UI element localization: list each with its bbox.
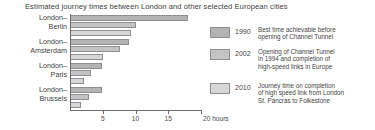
chart-title: Estimated journey times between London a…: [25, 2, 288, 11]
axis-tick-label: 15: [165, 115, 172, 122]
category-label: London– Paris: [0, 62, 67, 79]
axis-tick-label: 20 hours: [203, 115, 229, 122]
legend-swatch-2002: [210, 49, 230, 60]
category-label: London– Amsterdam: [0, 38, 67, 55]
category-group: London– Brussels: [0, 86, 205, 110]
category-label-line: Paris: [0, 71, 67, 80]
category-label: London– Brussels: [0, 86, 67, 103]
legend-item: 1990 Best time achievable before opening…: [210, 26, 375, 48]
bar-2010: [70, 78, 84, 84]
axis-tick: [103, 110, 104, 114]
bar-1990: [70, 15, 188, 21]
legend-year: 2002: [235, 50, 251, 57]
chart-container: Estimated journey times between London a…: [0, 0, 375, 130]
bar-group: [70, 14, 205, 38]
legend-description: Best time achievable before opening of C…: [258, 26, 375, 41]
legend-description-line: St. Pancras to Folkestone: [258, 97, 375, 104]
axis-tick-label: 5: [101, 115, 105, 122]
chart-legend: 1990 Best time achievable before opening…: [210, 26, 375, 108]
bar-2002: [70, 46, 120, 52]
axis-tick: [168, 110, 169, 114]
legend-description-line: Opening of Channel Tunnel: [258, 48, 375, 55]
legend-description-line: opening of Channel Tunnel: [258, 33, 375, 40]
legend-description-line: in 1994 and completion of: [258, 55, 375, 62]
category-group: London– Amsterdam: [0, 38, 205, 62]
legend-description: Opening of Channel Tunnel in 1994 and co…: [258, 48, 375, 70]
legend-year: 2010: [235, 84, 251, 91]
axis-tick: [136, 110, 137, 114]
bar-1990: [70, 39, 129, 45]
bar-2002: [70, 22, 136, 28]
legend-description: Journey time on completion of high speed…: [258, 82, 375, 104]
bar-group: [70, 86, 205, 110]
category-label-line: Amsterdam: [0, 47, 67, 56]
legend-description-line: Journey time on completion: [258, 82, 375, 89]
x-axis: 5101520 hours: [70, 110, 201, 128]
legend-description-line: high-speed links in Europe: [258, 63, 375, 70]
category-group: London– Paris: [0, 62, 205, 86]
legend-swatch-1990: [210, 27, 230, 38]
bar-group: [70, 62, 205, 86]
bar-2002: [70, 70, 91, 76]
bar-2010: [70, 102, 81, 108]
category-group: London– Berlin: [0, 14, 205, 38]
axis-tick: [201, 110, 202, 114]
legend-swatch-2010: [210, 83, 230, 94]
legend-description-line: of high speed link from London: [258, 89, 375, 96]
legend-description-line: Best time achievable before: [258, 26, 375, 33]
axis-tick-label: 10: [132, 115, 139, 122]
category-label: London– Berlin: [0, 14, 67, 31]
bar-2002: [70, 94, 89, 100]
bar-2010: [70, 54, 103, 60]
bar-2010: [70, 30, 131, 36]
legend-year: 1990: [235, 28, 251, 35]
bar-group: [70, 38, 205, 62]
legend-item: 2010 Journey time on completion of high …: [210, 82, 375, 108]
category-label-line: Berlin: [0, 23, 67, 32]
category-label-line: Brussels: [0, 95, 67, 104]
bar-1990: [70, 87, 102, 93]
legend-item: 2002 Opening of Channel Tunnel in 1994 a…: [210, 48, 375, 74]
bar-1990: [70, 63, 102, 69]
plot-area: London– Berlin London– Amsterdam: [0, 14, 205, 110]
y-axis-line: [70, 14, 71, 110]
